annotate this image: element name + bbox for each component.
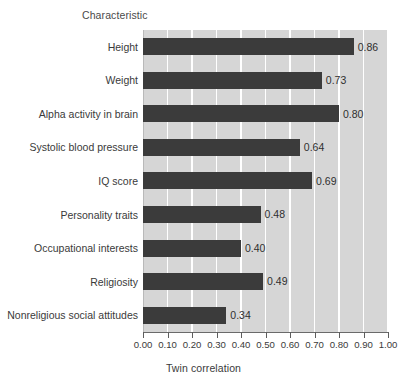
x-axis-tick-label: 0.80 — [330, 340, 349, 350]
bar-value-label: 0.69 — [316, 176, 336, 187]
x-axis-tick — [266, 332, 267, 338]
x-axis-tick-label: 0.60 — [281, 340, 300, 350]
plot-area: 0.860.730.800.640.690.480.400.490.34 — [143, 30, 388, 333]
x-axis-tick — [143, 332, 144, 338]
bar-value-label: 0.73 — [326, 75, 346, 86]
bar[interactable] — [143, 139, 300, 156]
category-label: Nonreligious social attitudes — [0, 310, 138, 321]
category-label: Occupational interests — [0, 243, 138, 254]
x-axis-tick — [339, 332, 340, 338]
bar[interactable] — [143, 105, 339, 122]
bar[interactable] — [143, 38, 354, 55]
y-axis-title: Characteristic — [82, 9, 148, 21]
bar[interactable] — [143, 240, 241, 257]
bar-row[interactable]: 0.49 — [143, 265, 388, 299]
x-axis-tick-label: 0.50 — [256, 340, 275, 350]
bar[interactable] — [143, 273, 263, 290]
x-axis-tick-label: 0.70 — [305, 340, 324, 350]
bar[interactable] — [143, 206, 261, 223]
category-label: Weight — [0, 75, 138, 86]
category-label: Personality traits — [0, 210, 138, 221]
bar-row[interactable]: 0.48 — [143, 198, 388, 232]
x-axis-tick-label: 0.40 — [232, 340, 251, 350]
bar[interactable] — [143, 72, 322, 89]
x-axis-tick-label: 0.20 — [183, 340, 202, 350]
bar-value-label: 0.40 — [245, 243, 265, 254]
category-label: Alpha activity in brain — [0, 109, 138, 120]
bar-value-label: 0.64 — [304, 142, 324, 153]
bar-value-label: 0.49 — [267, 276, 287, 287]
bar[interactable] — [143, 172, 312, 189]
bar-value-label: 0.34 — [230, 310, 250, 321]
bar-row[interactable]: 0.86 — [143, 30, 388, 64]
twin-correlation-bar-chart: Characteristic HeightWeightAlpha activit… — [0, 0, 407, 387]
x-axis-tick — [290, 332, 291, 338]
bar-row[interactable]: 0.40 — [143, 231, 388, 265]
x-axis-tick-label: 0.00 — [134, 340, 153, 350]
x-axis-tick — [217, 332, 218, 338]
bar-row[interactable]: 0.34 — [143, 298, 388, 332]
x-axis-tick-label: 1.00 — [379, 340, 398, 350]
category-label: IQ score — [0, 176, 138, 187]
bar-value-label: 0.86 — [358, 42, 378, 53]
x-axis-tick — [315, 332, 316, 338]
bar-row[interactable]: 0.80 — [143, 97, 388, 131]
x-axis-tick-label: 0.30 — [207, 340, 226, 350]
bar[interactable] — [143, 307, 226, 324]
bars-layer: 0.860.730.800.640.690.480.400.490.34 — [143, 30, 388, 332]
x-axis-tick — [364, 332, 365, 338]
category-label: Religiosity — [0, 277, 138, 288]
bar-value-label: 0.48 — [265, 209, 285, 220]
bar-row[interactable]: 0.69 — [143, 164, 388, 198]
bar-row[interactable]: 0.73 — [143, 64, 388, 98]
x-axis-tick — [388, 332, 389, 338]
category-label-list: HeightWeightAlpha activity in brainSysto… — [0, 30, 138, 332]
x-axis-tick — [168, 332, 169, 338]
category-label: Systolic blood pressure — [0, 142, 138, 153]
category-label: Height — [0, 42, 138, 53]
bar-value-label: 0.80 — [343, 109, 363, 120]
x-axis-tick — [192, 332, 193, 338]
x-axis-tick-label: 0.90 — [354, 340, 373, 350]
x-axis-tick-label: 0.10 — [158, 340, 177, 350]
x-axis-title: Twin correlation — [0, 362, 407, 374]
x-axis-tick-labels: 0.000.100.200.300.400.500.600.700.800.90… — [0, 340, 407, 354]
x-axis-tick — [241, 332, 242, 338]
bar-row[interactable]: 0.64 — [143, 131, 388, 165]
